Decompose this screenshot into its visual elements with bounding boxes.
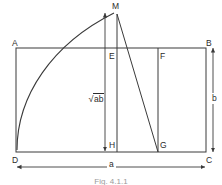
dimension-label-b: b	[212, 93, 217, 104]
vertex-label-d: D	[12, 156, 18, 165]
vertex-label-c: C	[206, 156, 212, 165]
vertex-label-m: M	[112, 2, 119, 11]
rectangle-abcd	[16, 48, 206, 152]
dimension-label-a: a	[107, 160, 116, 169]
geometry-figure: A B C D M E F H G a b √ab Fig. 4.1.1	[0, 0, 222, 185]
vertex-label-h: H	[109, 141, 115, 150]
vertex-label-f: F	[160, 52, 165, 61]
vertex-label-e: E	[109, 52, 115, 61]
radical-argument: ab	[93, 93, 103, 104]
segment-mg	[117, 14, 158, 152]
figure-canvas	[0, 0, 222, 185]
vertex-label-b: B	[206, 39, 212, 48]
geometric-mean-label: √ab	[88, 94, 104, 104]
arc-curve	[17, 13, 114, 150]
vertex-label-a: A	[12, 39, 18, 48]
vertex-label-g: G	[160, 141, 167, 150]
figure-caption: Fig. 4.1.1	[0, 177, 222, 185]
